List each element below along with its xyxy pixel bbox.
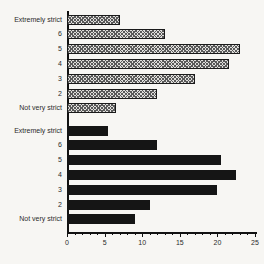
category-label: 6 [0, 29, 62, 39]
major-tick [67, 232, 68, 237]
major-tick [255, 232, 256, 237]
top-hatched-group-bar [67, 44, 240, 54]
x-tick-label: 15 [176, 239, 184, 246]
minor-tick [172, 232, 173, 235]
bottom-solid-group-bar [67, 170, 236, 180]
minor-tick [97, 232, 98, 235]
major-tick [105, 232, 106, 237]
category-label: 2 [0, 89, 62, 99]
category-label: Extremely strict [0, 15, 62, 25]
minor-tick [127, 232, 128, 235]
minor-tick [82, 232, 83, 235]
top-hatched-group-bar [67, 103, 116, 113]
minor-tick [202, 232, 203, 235]
category-label: 3 [0, 74, 62, 84]
top-hatched-group-bar [67, 29, 165, 39]
major-tick [217, 232, 218, 237]
category-label: 2 [0, 200, 62, 210]
minor-tick [232, 232, 233, 235]
x-axis-line [67, 232, 257, 234]
bottom-solid-group-bar [67, 126, 108, 136]
minor-tick [120, 232, 121, 235]
x-tick-label: 25 [251, 239, 259, 246]
category-label: 3 [0, 185, 62, 195]
minor-tick [195, 232, 196, 235]
top-hatched-group-bar [67, 74, 195, 84]
major-tick [180, 232, 181, 237]
minor-tick [135, 232, 136, 235]
minor-tick [187, 232, 188, 235]
x-tick-label: 0 [65, 239, 69, 246]
category-label: Not very strict [0, 214, 62, 224]
category-label: Extremely strict [0, 126, 62, 136]
x-tick-label: 20 [213, 239, 221, 246]
minor-tick [75, 232, 76, 235]
minor-tick [112, 232, 113, 235]
top-hatched-group-bar [67, 15, 120, 25]
major-tick [142, 232, 143, 237]
minor-tick [157, 232, 158, 235]
category-label: 4 [0, 59, 62, 69]
minor-tick [90, 232, 91, 235]
category-label: Not very strict [0, 103, 62, 113]
minor-tick [165, 232, 166, 235]
bottom-solid-group-bar [67, 140, 157, 150]
minor-tick [210, 232, 211, 235]
strictness-bar-chart: 0510152025 Extremely strict65432Not very… [0, 0, 264, 264]
bottom-solid-group-bar [67, 185, 217, 195]
minor-tick [150, 232, 151, 235]
category-label: 5 [0, 155, 62, 165]
bottom-solid-group-bar [67, 200, 150, 210]
bottom-solid-group-bar [67, 155, 221, 165]
x-tick-label: 10 [138, 239, 146, 246]
top-hatched-group-bar [67, 59, 229, 69]
category-label: 5 [0, 44, 62, 54]
minor-tick [247, 232, 248, 235]
bottom-solid-group-bar [67, 214, 135, 224]
x-tick-label: 5 [103, 239, 107, 246]
minor-tick [240, 232, 241, 235]
minor-tick [225, 232, 226, 235]
category-label: 4 [0, 170, 62, 180]
category-label: 6 [0, 140, 62, 150]
top-hatched-group-bar [67, 89, 157, 99]
